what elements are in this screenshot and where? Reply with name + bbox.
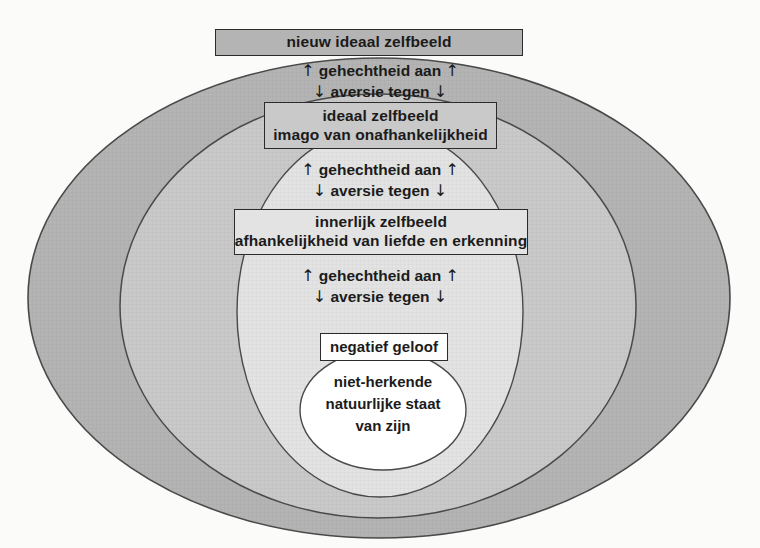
arrow-down-icon: ↓ — [313, 82, 326, 101]
core-text-line-1: niet-herkende — [300, 371, 466, 393]
arrow-down-text-3: aversie tegen — [330, 288, 429, 305]
arrows-between-second-and-third: ↑ gehechtheid aan ↑ ↓ aversie tegen ↓ — [0, 159, 760, 202]
arrows-between-third-and-core: ↑ gehechtheid aan ↑ ↓ aversie tegen ↓ — [0, 265, 760, 308]
arrow-down-text-1: aversie tegen — [330, 83, 429, 100]
box-negatief-geloof: negatief geloof — [320, 333, 448, 361]
arrow-line-attachment-3: ↑ gehechtheid aan ↑ — [0, 265, 760, 286]
box-nieuw-ideaal-zelfbeeld-line-1: nieuw ideaal zelfbeeld — [287, 33, 452, 52]
arrow-up-icon: ↑ — [445, 160, 458, 179]
core-natuurlijke-staat-text: niet-herkende natuurlijke staat van zijn — [300, 371, 466, 436]
arrow-down-icon: ↓ — [434, 181, 447, 200]
box-ideaal-zelfbeeld-line-1: ideaal zelfbeeld — [322, 107, 438, 126]
arrow-down-text-2: aversie tegen — [330, 182, 429, 199]
arrow-up-icon: ↑ — [301, 266, 314, 285]
arrow-down-icon: ↓ — [434, 82, 447, 101]
arrow-up-icon: ↑ — [301, 160, 314, 179]
arrow-down-icon: ↓ — [313, 181, 326, 200]
core-text-line-2: natuurlijke staat — [300, 393, 466, 415]
box-negatief-geloof-line-1: negatief geloof — [330, 338, 438, 356]
arrow-up-text-2: gehechtheid aan — [319, 161, 441, 178]
arrow-line-aversion-2: ↓ aversie tegen ↓ — [0, 180, 760, 201]
box-innerlijk-zelfbeeld-line-2: afhankelijkheid van liefde en erkenning — [235, 232, 527, 251]
box-ideaal-zelfbeeld: ideaal zelfbeeld imago van onafhankelijk… — [264, 102, 497, 149]
arrow-up-text-3: gehechtheid aan — [319, 267, 441, 284]
arrow-up-icon: ↑ — [445, 266, 458, 285]
arrow-down-icon: ↓ — [434, 287, 447, 306]
arrow-line-aversion-1: ↓ aversie tegen ↓ — [0, 81, 760, 102]
arrow-line-attachment-1: ↑ gehechtheid aan ↑ — [0, 60, 760, 81]
core-text-line-3: van zijn — [300, 415, 466, 437]
box-nieuw-ideaal-zelfbeeld: nieuw ideaal zelfbeeld — [215, 29, 523, 56]
arrow-up-text-1: gehechtheid aan — [319, 62, 441, 79]
arrow-down-icon: ↓ — [313, 287, 326, 306]
arrows-between-outer-and-second: ↑ gehechtheid aan ↑ ↓ aversie tegen ↓ — [0, 60, 760, 103]
box-innerlijk-zelfbeeld: innerlijk zelfbeeld afhankelijkheid van … — [234, 209, 528, 255]
arrow-up-icon: ↑ — [445, 61, 458, 80]
arrow-line-attachment-2: ↑ gehechtheid aan ↑ — [0, 159, 760, 180]
arrow-line-aversion-3: ↓ aversie tegen ↓ — [0, 286, 760, 307]
concentric-rings-diagram: nieuw ideaal zelfbeeld ↑ gehechtheid aan… — [0, 0, 760, 548]
box-ideaal-zelfbeeld-line-2: imago van onafhankelijkheid — [273, 126, 488, 145]
box-innerlijk-zelfbeeld-line-1: innerlijk zelfbeeld — [315, 213, 447, 232]
arrow-up-icon: ↑ — [301, 61, 314, 80]
